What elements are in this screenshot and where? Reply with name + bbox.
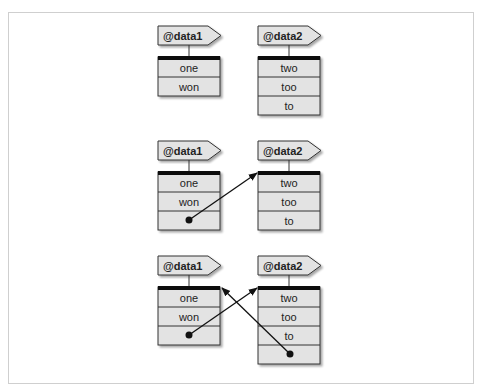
cell: too bbox=[281, 196, 296, 208]
cell: too bbox=[281, 81, 296, 93]
cell: too bbox=[281, 311, 296, 323]
panel-3: @data1 one won @data2 two too to bbox=[158, 256, 321, 364]
data2-label: @data2 bbox=[263, 30, 302, 42]
cell: won bbox=[178, 196, 199, 208]
data2-label: @data2 bbox=[263, 145, 302, 157]
panel-1: @data1 one won @data2 two too to bbox=[158, 26, 321, 115]
cell: two bbox=[280, 292, 297, 304]
cell: two bbox=[280, 62, 297, 74]
cell: one bbox=[180, 292, 198, 304]
data2-label: @data2 bbox=[263, 260, 302, 272]
array-reference-diagram: @data1 one won @data2 two too to @data1 bbox=[0, 0, 483, 389]
cell: one bbox=[180, 62, 198, 74]
cell: two bbox=[280, 177, 297, 189]
data1-label: @data1 bbox=[163, 145, 202, 157]
cell: won bbox=[178, 311, 199, 323]
cell: to bbox=[284, 215, 293, 227]
cell: to bbox=[284, 100, 293, 112]
data1-label: @data1 bbox=[163, 30, 202, 42]
reference-dot-icon bbox=[186, 332, 193, 339]
reference-dot-icon bbox=[287, 351, 294, 358]
data1-label: @data1 bbox=[163, 260, 202, 272]
panel-2: @data1 one won @data2 two too to bbox=[158, 141, 321, 230]
reference-dot-icon bbox=[186, 217, 193, 224]
cell: one bbox=[180, 177, 198, 189]
cell: to bbox=[284, 330, 293, 342]
cell: won bbox=[178, 81, 199, 93]
